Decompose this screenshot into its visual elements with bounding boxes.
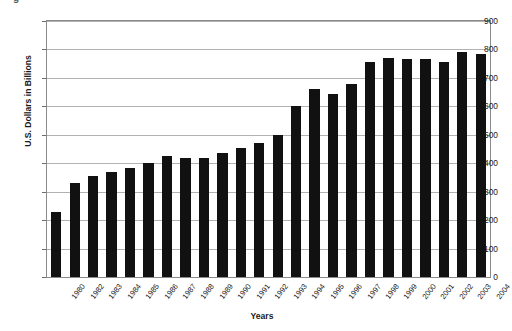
bar-slot xyxy=(309,21,319,277)
y-axis-tick-mark xyxy=(42,78,46,79)
bar[interactable] xyxy=(328,94,338,277)
bar[interactable] xyxy=(439,62,449,277)
bar[interactable] xyxy=(162,156,172,277)
x-axis-tick-label: 1993 xyxy=(291,282,309,301)
y-axis-tick-mark xyxy=(42,21,46,22)
bar-slot xyxy=(143,21,153,277)
bar-slot xyxy=(88,21,98,277)
y-axis-tick-mark xyxy=(42,49,46,50)
x-axis-tick-label: 1982 xyxy=(88,282,106,301)
bars-layer xyxy=(47,21,490,277)
bar[interactable] xyxy=(383,58,393,277)
x-axis-tick-label: 1995 xyxy=(328,282,346,301)
y-axis-tick-label: 400 xyxy=(464,158,498,168)
bar-slot xyxy=(106,21,116,277)
bar[interactable] xyxy=(199,158,209,277)
y-axis-tick-mark xyxy=(42,220,46,221)
bar-slot xyxy=(70,21,80,277)
y-axis-tick-label: 700 xyxy=(464,73,498,83)
y-axis-tick-mark xyxy=(42,249,46,250)
y-axis-tick-label: 300 xyxy=(464,187,498,197)
x-axis-tick-label: 1996 xyxy=(347,282,365,301)
bar[interactable] xyxy=(346,84,356,277)
x-axis-tick-label: 1986 xyxy=(162,282,180,301)
bar-slot xyxy=(402,21,412,277)
bar[interactable] xyxy=(402,59,412,277)
bar[interactable] xyxy=(420,59,430,277)
bar[interactable] xyxy=(51,212,61,277)
bar[interactable] xyxy=(365,62,375,277)
x-axis-tick-label: 1983 xyxy=(107,282,125,301)
x-axis-tick-label: 1992 xyxy=(273,282,291,301)
x-axis-tick-label: 1999 xyxy=(402,282,420,301)
bar-slot xyxy=(439,21,449,277)
bar-slot xyxy=(291,21,301,277)
y-axis-tick-label: 500 xyxy=(464,130,498,140)
y-axis-tick-label: 900 xyxy=(464,16,498,26)
y-axis-tick-mark xyxy=(42,192,46,193)
x-axis-tick-label: 1985 xyxy=(144,282,162,301)
bar[interactable] xyxy=(180,158,190,277)
bar[interactable] xyxy=(143,163,153,277)
y-axis-tick-label: 800 xyxy=(464,44,498,54)
bar-slot xyxy=(457,21,467,277)
y-axis-tick-mark xyxy=(42,135,46,136)
bar[interactable] xyxy=(273,135,283,277)
bar-slot xyxy=(199,21,209,277)
bar-slot xyxy=(180,21,190,277)
x-axis-tick-label: 1980 xyxy=(70,282,88,301)
x-axis-tick-label: 1997 xyxy=(365,282,383,301)
x-axis-tick-label: 1989 xyxy=(217,282,235,301)
y-axis-tick-mark xyxy=(42,106,46,107)
bar[interactable] xyxy=(217,153,227,277)
x-axis-title: Years xyxy=(0,311,498,321)
x-axis-tick-label: 2000 xyxy=(420,282,438,301)
bar-slot xyxy=(254,21,264,277)
bar-slot xyxy=(420,21,430,277)
bar-slot xyxy=(365,21,375,277)
bar[interactable] xyxy=(125,168,135,278)
x-axis-tick-label: 2004 xyxy=(494,282,512,301)
bar-slot xyxy=(125,21,135,277)
bar[interactable] xyxy=(88,176,98,277)
y-axis-tick-label: 200 xyxy=(464,215,498,225)
bar[interactable] xyxy=(236,148,246,277)
bar-slot xyxy=(476,21,486,277)
x-axis-tick-label: 2002 xyxy=(457,282,475,301)
x-axis-tick-label: 1984 xyxy=(125,282,143,301)
bar[interactable] xyxy=(309,89,319,277)
bar[interactable] xyxy=(254,143,264,277)
y-axis-title: U.S. Dollars in Billions xyxy=(23,16,33,186)
x-axis-tick-label: 1987 xyxy=(180,282,198,301)
bar[interactable] xyxy=(106,172,116,277)
bar[interactable] xyxy=(70,183,80,277)
y-axis-tick-mark xyxy=(42,163,46,164)
y-axis-tick-label: 600 xyxy=(464,101,498,111)
bar-slot xyxy=(273,21,283,277)
bar-slot xyxy=(162,21,172,277)
x-axis-tick-label: 1988 xyxy=(199,282,217,301)
y-axis-tick-label: 100 xyxy=(464,244,498,254)
x-axis-tick-label: 1998 xyxy=(384,282,402,301)
x-axis-tick-label: 1994 xyxy=(310,282,328,301)
caption-fragment-text: g xyxy=(13,0,20,3)
bar-slot xyxy=(51,21,61,277)
x-axis-tick-label: 2003 xyxy=(476,282,494,301)
bar-slot xyxy=(383,21,393,277)
bar[interactable] xyxy=(291,106,301,277)
bar-slot xyxy=(328,21,338,277)
y-axis-tick-mark xyxy=(42,277,46,278)
x-axis-tick-label: 1991 xyxy=(254,282,272,301)
bar-slot xyxy=(236,21,246,277)
x-axis-tick-label: 1990 xyxy=(236,282,254,301)
x-axis-tick-label: 2001 xyxy=(439,282,457,301)
y-axis-tick-label: 0 xyxy=(464,272,498,282)
bar-slot xyxy=(217,21,227,277)
bar-slot xyxy=(346,21,356,277)
